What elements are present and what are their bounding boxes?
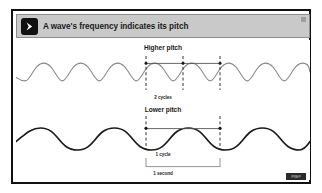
lower-pitch-label: Lower pitch	[16, 106, 310, 113]
one-second-label: 1 second	[16, 171, 310, 176]
wave-diagram-canvas: Higher pitch 2 cycles Lower pitch 1 cycl…	[16, 40, 310, 180]
higher-pitch-label: Higher pitch	[16, 44, 310, 51]
slide-title: A wave's frequency indicates its pitch	[43, 20, 188, 33]
higher-pitch-wave-path	[16, 63, 310, 81]
watermark-badge: PREP	[286, 173, 306, 180]
watermark-text: PREP	[291, 175, 301, 179]
upper-peak-dot-2	[182, 62, 185, 65]
lower-pitch-wave-path	[16, 128, 310, 150]
one-cycle-label: 1 cycle	[16, 152, 310, 157]
lower-peak-dot-2	[218, 127, 221, 130]
upper-peak-dot-3	[219, 62, 222, 65]
two-cycles-label: 2 cycles	[16, 95, 310, 100]
resize-handle-mark	[301, 17, 306, 22]
slide-header-bar: A wave's frequency indicates its pitch	[16, 14, 310, 38]
lower-peak-dot-1	[144, 127, 147, 130]
slide-frame: A wave's frequency indicates its pitch	[11, 9, 311, 184]
play-arrow-icon	[21, 18, 38, 35]
upper-peak-dot-1	[145, 62, 148, 65]
one-second-bracket	[146, 158, 220, 167]
